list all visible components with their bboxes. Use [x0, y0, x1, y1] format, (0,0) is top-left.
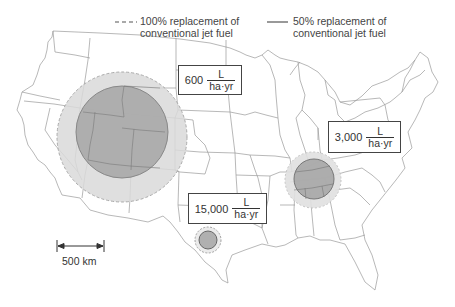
- yield-box-southeast: 3,000 L ha·yr: [328, 121, 401, 153]
- texas-50pct-circle: [199, 231, 217, 249]
- legend-solid-label-2: conventional jet fuel: [293, 27, 386, 39]
- yield-value-west: 600: [185, 74, 203, 86]
- yield-unit-west: L ha·yr: [207, 69, 235, 92]
- yield-value-texas: 15,000: [195, 203, 229, 215]
- scale-bar: [57, 240, 104, 252]
- yield-unit-southeast: L ha·yr: [366, 126, 394, 149]
- southeast-50pct-circle: [294, 159, 334, 199]
- yield-box-texas: 15,000 L ha·yr: [188, 193, 267, 224]
- yield-box-west: 600 L ha·yr: [178, 65, 242, 95]
- yield-value-southeast: 3,000: [335, 131, 363, 143]
- scale-bar-label: 500 km: [62, 255, 96, 267]
- legend-dashed-label-1: 100% replacement of: [140, 15, 239, 27]
- yield-unit-texas: L ha·yr: [232, 197, 260, 220]
- legend-dashed-label-2: conventional jet fuel: [140, 27, 233, 39]
- legend-solid-label-1: 50% replacement of: [293, 15, 386, 27]
